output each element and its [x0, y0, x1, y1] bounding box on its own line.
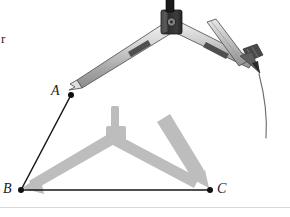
hinge-pivot-center [170, 21, 173, 24]
ghost-hinge-block [106, 126, 126, 145]
ghost-left-leg [29, 133, 118, 190]
point-c [207, 187, 213, 193]
geometry-figure [0, 0, 290, 217]
point-a [68, 92, 74, 98]
vertex-label-a: A [51, 84, 60, 98]
point-b [18, 187, 24, 193]
compass-active [69, 0, 263, 90]
vertex-label-c: C [217, 182, 226, 196]
compass-ghost [22, 106, 209, 194]
compass-left-leg [69, 22, 170, 90]
hinge-block-highlight [164, 12, 168, 32]
left-leg-body [77, 22, 170, 88]
compass-handle [166, 0, 174, 12]
construction-arc [259, 74, 266, 138]
compass-hinge [161, 0, 182, 34]
ghost-handle [111, 106, 119, 128]
stray-text-r: r [1, 32, 5, 45]
figure-canvas: r A B C [0, 0, 290, 217]
vertex-label-b: B [3, 182, 12, 196]
